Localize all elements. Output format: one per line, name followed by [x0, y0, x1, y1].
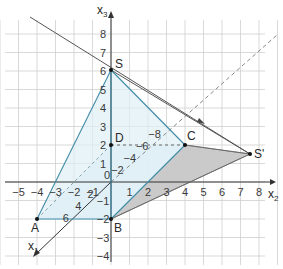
coordinate-diagram: −5−4−3−2−101234567887654321−1−2−3−4246−2… — [0, 0, 283, 269]
x2-tick-label: −3 — [49, 186, 62, 198]
x2-tick-label: −2 — [68, 186, 81, 198]
point-S-marker — [109, 68, 113, 72]
point-B-label: B — [114, 221, 122, 235]
point-Sprime-label: S' — [254, 147, 264, 161]
x1-tick-label: 4 — [75, 200, 81, 212]
x1-tick-label: 2 — [88, 188, 94, 200]
x3-tick-label: 3 — [100, 121, 106, 133]
x2-tick-label: −5 — [12, 186, 25, 198]
x3-tick-label: 5 — [100, 84, 106, 96]
x3-axis-arrow — [108, 11, 114, 18]
x1-tick-label: 6 — [63, 212, 69, 224]
point-C-label: C — [187, 129, 196, 143]
point-C-marker — [183, 143, 187, 147]
x3-tick-label: −3 — [97, 232, 110, 244]
x2-tick-label: 1 — [126, 186, 132, 198]
x3-tick-label: −2 — [97, 213, 110, 225]
x3-tick-label: 7 — [100, 47, 106, 59]
x2-tick-label: 4 — [182, 186, 188, 198]
point-S-label: S — [115, 57, 123, 71]
diagonal-tick-label: −2 — [111, 164, 124, 176]
x3-tick-label: −4 — [97, 250, 110, 262]
point-D-label: D — [115, 131, 124, 145]
point-D-marker — [109, 143, 113, 147]
x3-tick-label: 2 — [100, 139, 106, 151]
x2-tick-label: 3 — [163, 186, 169, 198]
x3-axis-label: x3 — [97, 3, 108, 19]
x2-tick-label: 7 — [237, 186, 243, 198]
x2-tick-label: 0 — [104, 169, 110, 181]
diagonal-tick-label: −4 — [124, 152, 137, 164]
x3-tick-label: 6 — [100, 65, 106, 77]
point-B-marker — [109, 217, 113, 221]
x3-tick-label: 8 — [100, 28, 106, 40]
x2-tick-label: 2 — [145, 186, 151, 198]
x2-tick-label: 6 — [219, 186, 225, 198]
x2-tick-label: 5 — [200, 186, 206, 198]
diagonal-tick-label: −8 — [148, 128, 161, 140]
x3-tick-label: 1 — [100, 158, 106, 170]
x2-tick-label: −4 — [31, 186, 44, 198]
point-Sprime-marker — [248, 152, 252, 156]
x2-axis-arrow — [270, 179, 276, 185]
x3-tick-label: −1 — [97, 195, 110, 207]
x2-tick-label: 8 — [256, 186, 262, 198]
x3-tick-label: 4 — [100, 102, 106, 114]
point-A-label: A — [31, 221, 39, 235]
diagonal-tick-label: −6 — [136, 140, 149, 152]
